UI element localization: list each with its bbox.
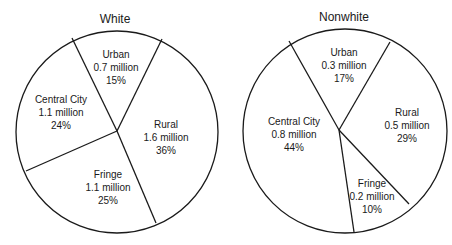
nonwhite-chart-title: Nonwhite xyxy=(284,10,404,24)
slice-value: 0.8 million xyxy=(249,128,339,141)
nonwhite-slice-rural: Rural 0.5 million 29% xyxy=(362,106,452,145)
slice-value: 0.7 million xyxy=(71,61,161,74)
slice-percent: 10% xyxy=(327,203,417,216)
slice-label: Fringe xyxy=(327,177,417,190)
slice-value: 1.1 million xyxy=(16,106,106,119)
white-slice-fringe: Fringe 1.1 million 25% xyxy=(63,168,153,207)
slice-value: 0.3 million xyxy=(299,59,389,72)
white-slice-urban: Urban 0.7 million 15% xyxy=(71,48,161,87)
white-slice-rural: Rural 1.6 million 36% xyxy=(121,118,211,157)
slice-value: 0.2 million xyxy=(327,190,417,203)
slice-label: Urban xyxy=(71,48,161,61)
slice-label: Central City xyxy=(249,115,339,128)
nonwhite-slice-central-city: Central City 0.8 million 44% xyxy=(249,115,339,154)
slice-percent: 25% xyxy=(63,194,153,207)
slice-label: Central City xyxy=(16,93,106,106)
slice-percent: 44% xyxy=(249,141,339,154)
slice-percent: 36% xyxy=(121,144,211,157)
slice-value: 1.6 million xyxy=(121,131,211,144)
white-chart-title: White xyxy=(55,12,175,26)
nonwhite-slice-fringe: Fringe 0.2 million 10% xyxy=(327,177,417,216)
white-divider-central-fringe xyxy=(26,131,117,171)
slice-percent: 17% xyxy=(299,72,389,85)
slice-label: Rural xyxy=(362,106,452,119)
slice-label: Rural xyxy=(121,118,211,131)
slice-value: 0.5 million xyxy=(362,119,452,132)
slice-label: Fringe xyxy=(63,168,153,181)
nonwhite-slice-urban: Urban 0.3 million 17% xyxy=(299,46,389,85)
slice-percent: 15% xyxy=(71,74,161,87)
slice-percent: 29% xyxy=(362,132,452,145)
white-slice-central-city: Central City 1.1 million 24% xyxy=(16,93,106,132)
slice-label: Urban xyxy=(299,46,389,59)
slice-value: 1.1 million xyxy=(63,181,153,194)
slice-percent: 24% xyxy=(16,119,106,132)
